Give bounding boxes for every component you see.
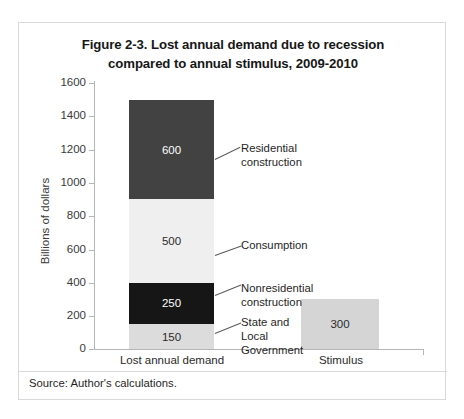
figure-container: Figure 2-3. Lost annual demand due to re… (18, 22, 446, 400)
source-divider (19, 371, 447, 372)
y-tick-label-200: 200 (26, 309, 86, 321)
bar-segment-nonresidential-construction[interactable]: 250 (129, 283, 214, 325)
y-tick-1600 (89, 83, 95, 84)
leader-line-residential (215, 147, 241, 160)
bar-value-stimulus: 300 (330, 318, 349, 330)
leader-line-nonresidential (215, 285, 241, 296)
y-tick-label-1600: 1600 (26, 76, 86, 88)
y-tick-label-800: 800 (26, 209, 86, 221)
x-axis-label-stimulus: Stimulus (287, 354, 395, 366)
bar-segment-state-and-local-government[interactable]: 150 (129, 324, 214, 349)
y-tick-800 (89, 216, 95, 217)
bar-lost-annual-demand[interactable]: 600 500 250 150 (129, 100, 214, 349)
source-note: Source: Author's calculations. (29, 377, 177, 389)
x-axis-label-lost-annual-demand: Lost annual demand (97, 354, 247, 366)
y-tick-200 (89, 316, 95, 317)
callout-label-state-and-local-government: State and Local Government (241, 315, 303, 357)
y-tick-label-400: 400 (26, 276, 86, 288)
y-tick-1200 (89, 150, 95, 151)
bar-value-consumption: 500 (162, 235, 181, 247)
plot-area: Billions of dollars 1600 1400 1200 1000 … (19, 23, 447, 401)
y-tick-label-0: 0 (26, 342, 86, 354)
bar-value-residential: 600 (162, 144, 181, 156)
bar-segment-consumption[interactable]: 500 (129, 199, 214, 282)
y-axis-line (94, 81, 95, 349)
callout-label-consumption: Consumption (241, 238, 308, 252)
y-tick-600 (89, 250, 95, 251)
y-tick-label-1000: 1000 (26, 176, 86, 188)
y-tick-1000 (89, 183, 95, 184)
bar-value-nonresidential: 250 (162, 297, 181, 309)
x-axis-end-tick (423, 349, 424, 355)
bar-segment-residential-construction[interactable]: 600 (129, 100, 214, 200)
y-tick-label-1400: 1400 (26, 109, 86, 121)
callout-label-nonresidential-construction: Nonresidential construction (241, 281, 313, 309)
y-tick-1400 (89, 116, 95, 117)
bar-value-stateandlocal: 150 (162, 331, 181, 343)
leader-line-state-and-local (215, 323, 241, 334)
y-tick-label-600: 600 (26, 243, 86, 255)
callout-label-residential-construction: Residential construction (241, 141, 302, 169)
y-tick-0 (89, 349, 95, 350)
leader-line-consumption (215, 245, 242, 256)
y-tick-400 (89, 283, 95, 284)
y-tick-label-1200: 1200 (26, 143, 86, 155)
